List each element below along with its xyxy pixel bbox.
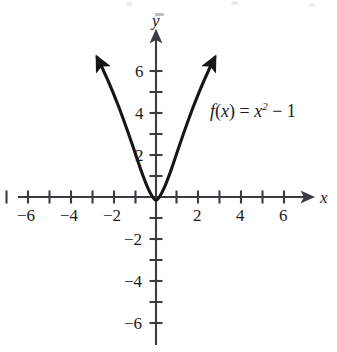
y-tick-label-2: 2 <box>135 147 144 164</box>
coordinate-plane <box>0 0 337 352</box>
equation-equals: = <box>240 101 250 121</box>
graph-figure: −6 −4 −2 2 4 6 6 4 2 −2 −4 −6 x y f(x) =… <box>0 0 337 352</box>
equation-exponent: 2 <box>262 100 268 112</box>
y-axis-label: y <box>152 12 160 29</box>
function-equation-label: f(x) = x2 − 1 <box>210 102 296 120</box>
equation-close-paren: ) <box>229 101 235 121</box>
equation-variable: x <box>221 101 229 121</box>
y-tick-label--4: −4 <box>124 273 142 290</box>
y-tick-label--2: −2 <box>124 231 142 248</box>
equation-base: x <box>254 101 262 121</box>
x-axis-label: x <box>320 189 328 206</box>
x-tick-label--6: −6 <box>17 207 35 224</box>
x-tick-label-6: 6 <box>279 207 288 224</box>
equation-constant: 1 <box>287 101 296 121</box>
x-tick-label--4: −4 <box>60 207 78 224</box>
y-axis-group <box>150 31 163 345</box>
y-tick-label-4: 4 <box>135 105 144 122</box>
y-tick-label--6: −6 <box>124 315 142 332</box>
x-tick-label--2: −2 <box>103 207 121 224</box>
equation-minus: − <box>272 101 282 121</box>
x-tick-label-4: 4 <box>236 207 245 224</box>
y-tick-label-6: 6 <box>135 63 144 80</box>
x-tick-label-2: 2 <box>193 207 202 224</box>
